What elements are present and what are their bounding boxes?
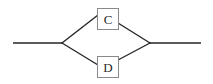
- node-c[interactable]: C: [97, 8, 119, 30]
- node-d-label: D: [103, 60, 112, 73]
- node-d[interactable]: D: [97, 56, 119, 78]
- edge-c-to-merge: [118, 23, 150, 43]
- edge-d-to-merge: [118, 43, 150, 60]
- edge-split-to-d: [62, 43, 98, 65]
- node-c-label: C: [104, 12, 113, 25]
- diagram-canvas: C D: [0, 0, 213, 84]
- edge-split-to-c: [62, 15, 98, 43]
